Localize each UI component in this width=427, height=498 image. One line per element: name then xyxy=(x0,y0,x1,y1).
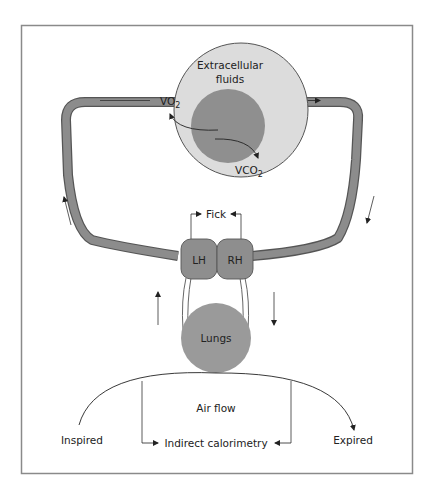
extracellular-label-line2: fluids xyxy=(216,73,244,85)
left-heart-label: LH xyxy=(192,254,206,266)
extracellular-label-line1: Extracellular xyxy=(197,59,264,71)
lungs-label: Lungs xyxy=(200,332,231,344)
cell-compartment xyxy=(191,89,265,163)
air-flow-label: Air flow xyxy=(196,402,236,414)
right-heart-label: RH xyxy=(227,254,242,266)
indirect-calorimetry-label: Indirect calorimetry xyxy=(164,437,267,449)
expired-label: Expired xyxy=(333,434,373,446)
flow-arrow-right-down xyxy=(367,196,374,223)
fick-label: Fick xyxy=(206,208,227,220)
physiology-diagram: Extracellular fluids VO2 VCO2 Fick LH RH… xyxy=(0,0,427,498)
inspired-label: Inspired xyxy=(61,434,103,446)
